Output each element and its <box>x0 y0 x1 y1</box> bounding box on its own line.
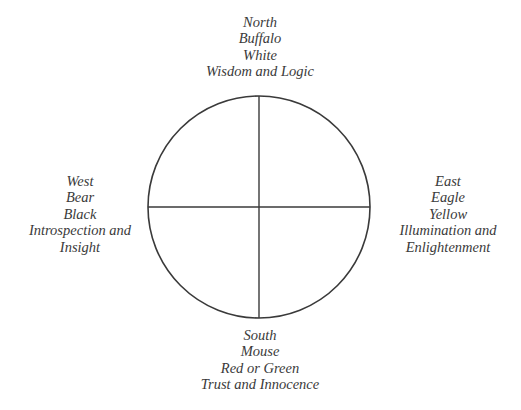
east-animal: Eagle <box>375 189 521 205</box>
north-label: North Buffalo White Wisdom and Logic <box>179 14 341 80</box>
south-direction: South <box>170 327 350 343</box>
east-direction: East <box>375 173 521 189</box>
south-animal: Mouse <box>170 343 350 359</box>
south-label: South Mouse Red or Green Trust and Innoc… <box>170 327 350 393</box>
west-qualities-line1: Introspection and <box>10 222 150 238</box>
north-qualities: Wisdom and Logic <box>179 63 341 79</box>
south-color: Red or Green <box>170 360 350 376</box>
east-qualities-line1: Illumination and <box>375 222 521 238</box>
west-label: West Bear Black Introspection and Insigh… <box>10 173 150 255</box>
north-color: White <box>179 47 341 63</box>
south-qualities: Trust and Innocence <box>170 376 350 392</box>
west-qualities-line2: Insight <box>10 239 150 255</box>
north-direction: North <box>179 14 341 30</box>
east-label: East Eagle Yellow Illumination and Enlig… <box>375 173 521 255</box>
west-animal: Bear <box>10 189 150 205</box>
north-animal: Buffalo <box>179 30 341 46</box>
west-color: Black <box>10 206 150 222</box>
east-qualities-line2: Enlightenment <box>375 239 521 255</box>
west-direction: West <box>10 173 150 189</box>
east-color: Yellow <box>375 206 521 222</box>
